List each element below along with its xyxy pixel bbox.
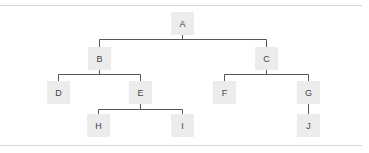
node-g: G (297, 81, 320, 104)
node-e: E (129, 81, 152, 104)
node-i: I (171, 114, 194, 137)
node-j: J (297, 114, 320, 137)
node-c: C (255, 47, 278, 70)
node-b: B (88, 47, 111, 70)
node-f: F (213, 81, 236, 104)
node-h: H (87, 114, 110, 137)
edge-e-hi (99, 104, 183, 114)
edge-b-de (59, 70, 141, 81)
node-d: D (47, 81, 70, 104)
edge-c-fg (225, 70, 309, 81)
edge-a-bc (100, 34, 267, 47)
node-a: A (171, 12, 194, 35)
